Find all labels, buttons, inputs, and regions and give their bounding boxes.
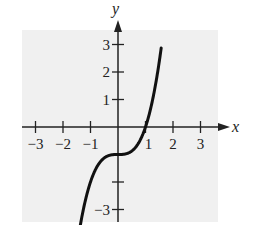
x-tick-label: −1 — [83, 136, 99, 152]
y-axis-arrow-icon — [114, 20, 122, 32]
y-tick-label: 1 — [103, 92, 111, 108]
x-tick-label: 3 — [197, 136, 205, 152]
chart: −3−2−1123−3123 x y — [0, 0, 253, 225]
y-tick-label: 3 — [103, 37, 111, 53]
x-tick-label: 2 — [169, 136, 177, 152]
x-axis-label: x — [231, 118, 239, 135]
x-tick-label: −3 — [28, 136, 44, 152]
x-axis-arrow-icon — [218, 123, 230, 131]
x-tick-label: 1 — [145, 136, 153, 152]
x-tick-label: −2 — [55, 136, 71, 152]
y-tick-label: −3 — [94, 202, 110, 218]
y-axis-label: y — [110, 0, 120, 18]
plot-background — [22, 30, 218, 222]
y-tick-label: 2 — [103, 64, 111, 80]
